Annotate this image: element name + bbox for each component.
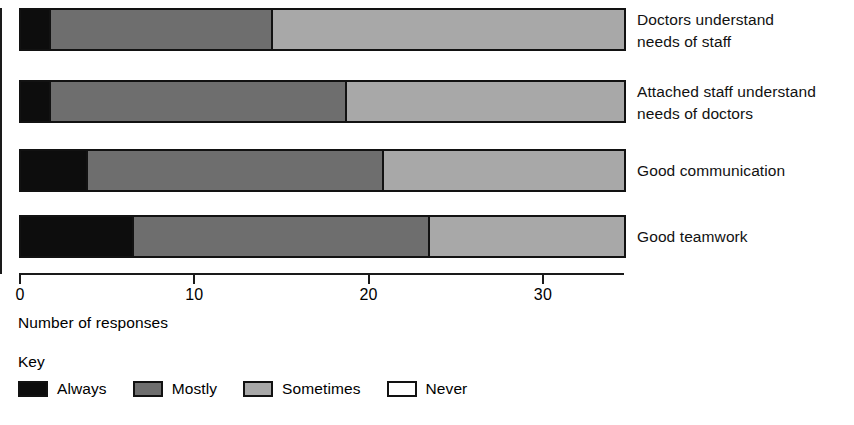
legend-swatch-never-icon <box>387 381 417 397</box>
bar-segment-sometimes <box>345 82 624 121</box>
legend-items: AlwaysMostlySometimesNever <box>18 380 493 398</box>
bar-segment-always <box>21 10 49 49</box>
legend-swatch-mostly-icon <box>133 381 163 397</box>
stacked-bar-chart: 0102030 Doctors understand needs of staf… <box>0 0 854 425</box>
x-tick-30 <box>542 275 544 284</box>
x-axis-line <box>19 273 624 275</box>
legend-swatch-always-icon <box>18 381 48 397</box>
x-axis-title: Number of responses <box>18 313 168 333</box>
bar-row <box>19 215 626 258</box>
x-tick-0 <box>19 275 21 284</box>
bar-row <box>19 149 626 192</box>
bar-segment-always <box>21 82 49 121</box>
legend-item-sometimes[interactable]: Sometimes <box>243 380 360 398</box>
bar-row <box>19 8 626 51</box>
bar-segment-always <box>21 151 86 190</box>
y-axis-line <box>0 8 2 274</box>
category-label: Good teamwork <box>637 226 748 248</box>
legend: Key AlwaysMostlySometimesNever <box>18 352 493 398</box>
legend-item-never[interactable]: Never <box>387 380 468 398</box>
legend-item-mostly[interactable]: Mostly <box>133 380 217 398</box>
bar-segment-mostly <box>132 217 428 256</box>
legend-label: Sometimes <box>282 380 360 398</box>
legend-label: Always <box>57 380 107 398</box>
bar-segment-sometimes <box>382 151 624 190</box>
legend-item-always[interactable]: Always <box>18 380 107 398</box>
x-tick-label-20: 20 <box>359 286 377 304</box>
bar-segment-always <box>21 217 132 256</box>
legend-label: Mostly <box>172 380 217 398</box>
x-tick-10 <box>193 275 195 284</box>
x-tick-label-30: 30 <box>534 286 552 304</box>
x-tick-label-0: 0 <box>15 286 24 304</box>
category-label: Attached staff understand needs of docto… <box>637 81 816 125</box>
bar-segment-mostly <box>49 10 271 49</box>
legend-label: Never <box>426 380 468 398</box>
x-tick-20 <box>368 275 370 284</box>
legend-title: Key <box>18 352 493 372</box>
category-label: Doctors understand needs of staff <box>637 9 774 53</box>
legend-swatch-sometimes-icon <box>243 381 273 397</box>
bar-segment-sometimes <box>271 10 624 49</box>
bar-segment-mostly <box>49 82 345 121</box>
bar-row <box>19 80 626 123</box>
category-label: Good communication <box>637 160 785 182</box>
bar-segment-sometimes <box>428 217 624 256</box>
bar-segment-mostly <box>86 151 382 190</box>
x-tick-label-10: 10 <box>185 286 203 304</box>
